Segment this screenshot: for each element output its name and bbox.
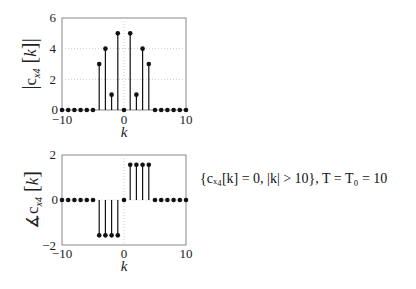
ytick-0: 0	[52, 192, 59, 207]
y-axis-label-magnitude: |cx4 [k]|	[16, 38, 42, 90]
svg-text:|cx4 [k]|: |cx4 [k]|	[16, 38, 42, 90]
ytick-2: 2	[50, 72, 57, 87]
y-axis-label-phase: ∡cx4 [k]	[20, 171, 44, 229]
xtick-neg10: −10	[52, 112, 72, 127]
ytick-4: 4	[50, 41, 57, 56]
xtick-neg10: −10	[52, 246, 72, 261]
ytick-2: 2	[50, 147, 57, 162]
ytick-6: 6	[50, 10, 57, 25]
magnitude-plot: 6 4 2 0 −10 0 10 k |cx4 [k]|	[16, 10, 193, 140]
x-axis-label: k	[121, 258, 128, 274]
xtick-10: 10	[180, 246, 193, 261]
xtick-10: 10	[180, 112, 193, 127]
phase-plot: 2 0 −2 −10 0 10 k ∡cx4 [k]	[20, 147, 193, 274]
stem-plots: 6 4 2 0 −10 0 10 k |cx4 [k]| 2 0 −2 −10 …	[0, 0, 416, 289]
annotation-text: {cₓ₄[k] = 0, |k| > 10}, T = T₀ = 10	[200, 171, 387, 187]
grid-lines	[62, 18, 186, 110]
magnitude-stems	[60, 31, 189, 112]
svg-text:∡cx4 [k]: ∡cx4 [k]	[20, 171, 44, 229]
x-axis-label: k	[121, 124, 128, 140]
